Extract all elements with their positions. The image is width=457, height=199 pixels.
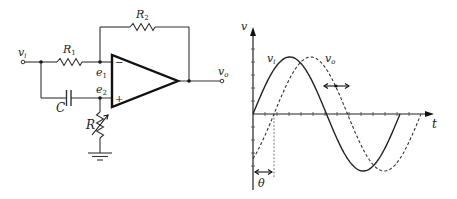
vi-curve-label: vi	[267, 52, 275, 66]
x-axis-label: t	[432, 117, 437, 131]
theta-double-arrow	[255, 170, 272, 175]
waveform-plot: θ v t vi vo	[241, 20, 437, 190]
output-junction-dot	[187, 79, 191, 83]
noninverting-input-sign: +	[115, 93, 123, 104]
node-e2-label: e2	[96, 83, 107, 97]
input-label: vi	[18, 46, 26, 60]
input-terminal	[21, 60, 25, 64]
r1-label: R1	[62, 43, 76, 57]
capacitor-icon	[67, 90, 72, 106]
r1-resistor-icon	[57, 59, 82, 66]
output-terminal	[220, 79, 224, 83]
inverting-input-sign: −	[115, 57, 123, 68]
op-amp-circuit: vi R1 R2 e1 e2 C R vo − +	[18, 8, 228, 160]
output-label: vo	[218, 65, 228, 79]
node-e1-label: e1	[96, 66, 107, 80]
phase-shifter-figure: vi R1 R2 e1 e2 C R vo − +	[0, 0, 457, 199]
variable-resistor-label: R	[85, 118, 95, 132]
capacitor-label: C	[56, 101, 65, 115]
theta-label: θ	[258, 177, 265, 190]
vo-curve-label: vo	[325, 52, 335, 66]
y-axis-arrowhead	[250, 27, 256, 36]
r2-label: R2	[135, 8, 149, 22]
y-axis-label: v	[241, 20, 248, 33]
ground-icon	[88, 153, 112, 160]
r2-resistor-icon	[130, 24, 155, 31]
